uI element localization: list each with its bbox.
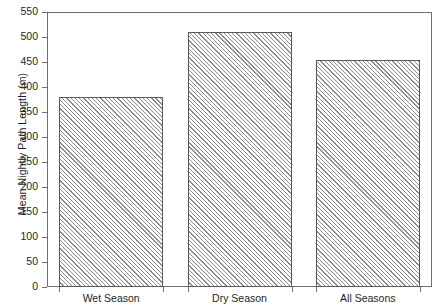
x-tick-mark	[420, 287, 421, 292]
y-tick-mark	[42, 212, 47, 213]
y-tick-label: 200	[20, 180, 38, 192]
x-tick-mark	[163, 287, 164, 292]
x-tick-mark	[316, 287, 317, 292]
y-tick-label: 550	[20, 5, 38, 17]
y-tick-mark	[42, 87, 47, 88]
y-axis-title: Mean Nightly Path Length (m)	[16, 34, 28, 254]
y-tick-label: 500	[20, 30, 38, 42]
y-tick-mark	[42, 62, 47, 63]
x-axis-label: Wet Season	[83, 292, 140, 304]
y-tick-label: 50	[26, 255, 38, 267]
y-tick-label: 450	[20, 55, 38, 67]
y-tick-mark	[42, 237, 47, 238]
y-tick-label: 400	[20, 80, 38, 92]
y-tick-mark	[42, 187, 47, 188]
y-tick-label: 0	[32, 280, 38, 292]
y-tick-mark	[42, 12, 47, 13]
y-tick-label: 300	[20, 130, 38, 142]
y-tick-mark	[42, 112, 47, 113]
x-axis-label: Dry Season	[212, 292, 267, 304]
x-tick-mark	[292, 287, 293, 292]
bar-all-seasons	[316, 60, 420, 288]
x-tick-mark	[188, 287, 189, 292]
x-axis-label: All Seasons	[340, 292, 395, 304]
y-tick-label: 350	[20, 105, 38, 117]
y-tick-label: 100	[20, 230, 38, 242]
x-tick-mark	[59, 287, 60, 292]
y-tick-mark	[42, 287, 47, 288]
y-tick-mark	[42, 262, 47, 263]
bar-chart: Mean Nightly Path Length (m) 05010015020…	[0, 0, 435, 308]
y-tick-mark	[42, 137, 47, 138]
y-tick-mark	[42, 37, 47, 38]
y-tick-mark	[42, 162, 47, 163]
bar-dry-season	[188, 32, 292, 288]
y-tick-label: 250	[20, 155, 38, 167]
y-tick-label: 150	[20, 205, 38, 217]
bar-wet-season	[59, 97, 163, 287]
